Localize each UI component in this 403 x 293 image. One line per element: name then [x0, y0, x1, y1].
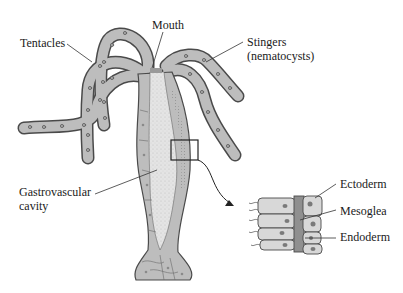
- mesoglea-layer: [294, 196, 304, 252]
- label-cavity: cavity: [19, 200, 48, 213]
- body-column: [135, 68, 192, 280]
- label-stingers: Stingers: [247, 36, 286, 49]
- label-endoderm: Endoderm: [340, 231, 390, 244]
- label-nematocysts: (nematocysts): [247, 50, 314, 63]
- label-tentacles: Tentacles: [20, 37, 65, 50]
- tentacles: [24, 31, 238, 158]
- label-mesoglea: Mesoglea: [340, 205, 387, 218]
- cell-layers-detail: [249, 196, 322, 254]
- label-mouth: Mouth: [152, 19, 184, 32]
- label-gastrovascular: Gastrovascular: [19, 186, 91, 199]
- callout-arrow: [198, 160, 230, 203]
- mouth-opening: [150, 68, 162, 73]
- hydra-diagram: Mouth Tentacles Stingers (nematocysts) G…: [0, 0, 403, 293]
- label-ectoderm: Ectoderm: [340, 178, 387, 191]
